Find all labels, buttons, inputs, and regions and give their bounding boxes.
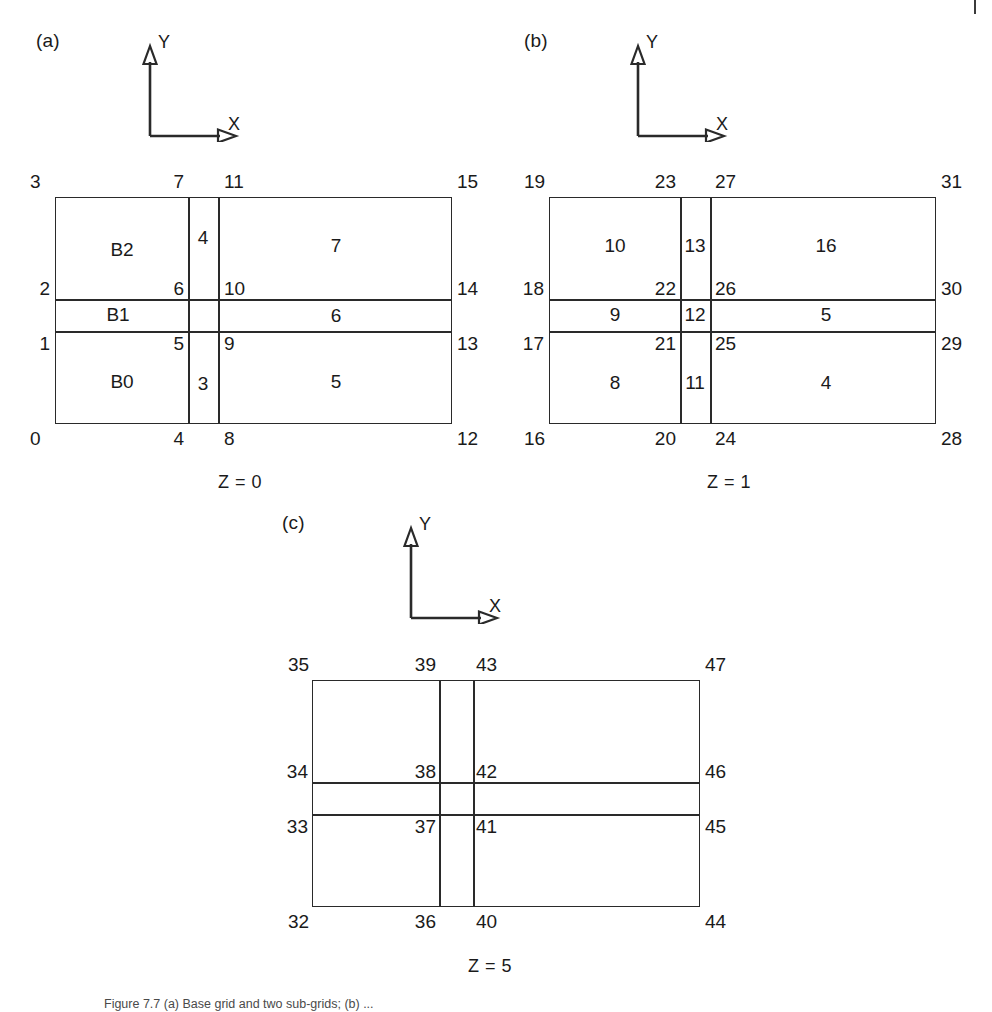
panel-a-node-0: 0 [30, 428, 41, 450]
panel-c-z-label: Z = 5 [468, 956, 512, 977]
panel-b-node-21: 21 [655, 333, 676, 355]
panel-b-node-18: 18 [523, 278, 544, 300]
panel-c-y-axis-label: Y [419, 514, 431, 535]
panel-a-node-7: 7 [173, 171, 184, 193]
panel-b-node-16: 16 [524, 428, 545, 450]
panel-c-node-47: 47 [705, 654, 726, 676]
panel-a-vline-1 [188, 198, 190, 423]
panel-c-node-35: 35 [288, 654, 309, 676]
panel-a-node-4: 4 [173, 428, 184, 450]
panel-c-node-39: 39 [415, 654, 436, 676]
panel-b-hline-2 [550, 331, 935, 333]
panel-c-mesh [312, 680, 700, 907]
panel-b-tag: (b) [524, 30, 548, 52]
panel-b-node-17: 17 [523, 333, 544, 355]
panel-a-node-8: 8 [224, 428, 235, 450]
panel-c-node-41: 41 [476, 816, 497, 838]
panel-a-node-6: 6 [173, 278, 184, 300]
panel-b-y-axis-label: Y [646, 32, 658, 53]
panel-b-node-31: 31 [941, 171, 962, 193]
panel-b-x-axis-label: X [716, 114, 728, 135]
panel-a-mesh: B2 4 7 B1 6 B0 3 5 [55, 197, 452, 424]
panel-b-cell-5: 5 [821, 304, 832, 326]
panel-a-node-12: 12 [457, 428, 478, 450]
panel-b-node-25: 25 [715, 333, 736, 355]
panel-b-vline-1 [680, 198, 682, 423]
panel-a-node-10: 10 [224, 278, 245, 300]
panel-b-cell-16: 16 [815, 235, 836, 257]
panel-b-cell-4: 4 [821, 372, 832, 394]
panel-a-cell-B0: B0 [110, 371, 133, 393]
panel-b-node-23: 23 [655, 171, 676, 193]
panel-a-hline-2 [56, 331, 451, 333]
panel-a-node-14: 14 [457, 278, 478, 300]
panel-c-hline-2 [313, 814, 699, 816]
panel-a-cell-B1: B1 [106, 304, 129, 326]
panel-a-y-axis-label: Y [158, 32, 170, 53]
panel-c-node-45: 45 [705, 816, 726, 838]
panel-c-node-42: 42 [476, 761, 497, 783]
panel-b-node-29: 29 [941, 333, 962, 355]
panel-c-node-33: 33 [287, 816, 308, 838]
panel-a-node-3: 3 [30, 171, 41, 193]
panel-c-node-32: 32 [288, 911, 309, 933]
panel-a-cell-4: 4 [198, 227, 209, 249]
panel-b-node-28: 28 [941, 428, 962, 450]
panel-a-node-13: 13 [457, 333, 478, 355]
panel-b-cell-11: 11 [685, 372, 705, 394]
panel-c-node-36: 36 [415, 911, 436, 933]
panel-a-cell-7: 7 [331, 235, 342, 257]
panel-b-node-30: 30 [941, 278, 962, 300]
panel-a-node-2: 2 [39, 278, 50, 300]
panel-c-vline-2 [473, 681, 475, 906]
panel-a-tag: (a) [36, 30, 60, 52]
panel-b-cell-12: 12 [684, 304, 705, 326]
panel-c-axes: Y X [397, 518, 507, 624]
panel-a-node-11: 11 [224, 171, 244, 193]
panel-c-node-44: 44 [705, 911, 726, 933]
panel-a-node-9: 9 [224, 333, 235, 355]
panel-c-node-43: 43 [476, 654, 497, 676]
panel-b-node-27: 27 [715, 171, 736, 193]
panel-c-node-34: 34 [287, 761, 308, 783]
panel-b-node-22: 22 [655, 278, 676, 300]
panel-c-vline-1 [439, 681, 441, 906]
panel-a-hline-1 [56, 299, 451, 301]
figure-page: (a) Y X B2 4 7 B1 6 B0 3 5 [0, 0, 992, 1012]
panel-b-hline-1 [550, 299, 935, 301]
panel-b-cell-13: 13 [684, 235, 705, 257]
panel-a-cell-3: 3 [198, 373, 209, 395]
panel-a-node-15: 15 [457, 171, 478, 193]
panel-c-node-40: 40 [476, 911, 497, 933]
panel-a-node-5: 5 [173, 333, 184, 355]
panel-c-node-38: 38 [415, 761, 436, 783]
panel-b-node-24: 24 [715, 428, 736, 450]
panel-c-x-axis-label: X [489, 596, 501, 617]
panel-a-cell-B2: B2 [110, 239, 133, 261]
panel-b-node-20: 20 [655, 428, 676, 450]
panel-a-cell-5: 5 [331, 371, 342, 393]
panel-b-vline-2 [710, 198, 712, 423]
panel-c-tag: (c) [282, 512, 305, 534]
panel-c: (c) Y X 35 39 43 47 34 38 42 46 33 37 [0, 480, 992, 1012]
panel-b-axes: Y X [624, 36, 734, 142]
panel-a-vline-2 [218, 198, 220, 423]
panel-b-cell-10: 10 [604, 235, 625, 257]
panel-b-cell-8: 8 [610, 372, 621, 394]
panel-b-mesh: 10 13 16 9 12 5 8 11 4 [549, 197, 936, 424]
panel-c-node-46: 46 [705, 761, 726, 783]
panel-a-x-axis-label: X [228, 114, 240, 135]
panel-a-cell-6: 6 [331, 305, 342, 327]
panel-c-hline-1 [313, 782, 699, 784]
figure-caption: Figure 7.7 (a) Base grid and two sub-gri… [104, 996, 962, 1012]
panel-a: (a) Y X B2 4 7 B1 6 B0 3 5 [0, 0, 500, 500]
panel-b: (b) Y X 10 13 16 9 12 5 8 11 4 [494, 0, 992, 500]
panel-a-axes: Y X [136, 36, 246, 142]
panel-b-node-19: 19 [524, 171, 545, 193]
panel-b-cell-9: 9 [610, 304, 621, 326]
panel-c-node-37: 37 [415, 816, 436, 838]
panel-a-node-1: 1 [39, 333, 50, 355]
panel-b-node-26: 26 [715, 278, 736, 300]
